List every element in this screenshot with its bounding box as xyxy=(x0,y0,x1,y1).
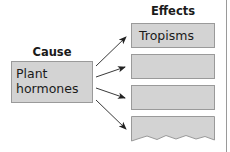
right-divider-line xyxy=(226,0,227,152)
arrow-to-effect-4 xyxy=(96,100,126,129)
diagram-graphics xyxy=(0,0,230,152)
arrow-to-effect-3 xyxy=(96,88,125,98)
arrow-to-effect-1 xyxy=(96,37,126,66)
arrow-to-effect-2 xyxy=(96,67,125,77)
effect-box-4-torn xyxy=(132,117,215,142)
